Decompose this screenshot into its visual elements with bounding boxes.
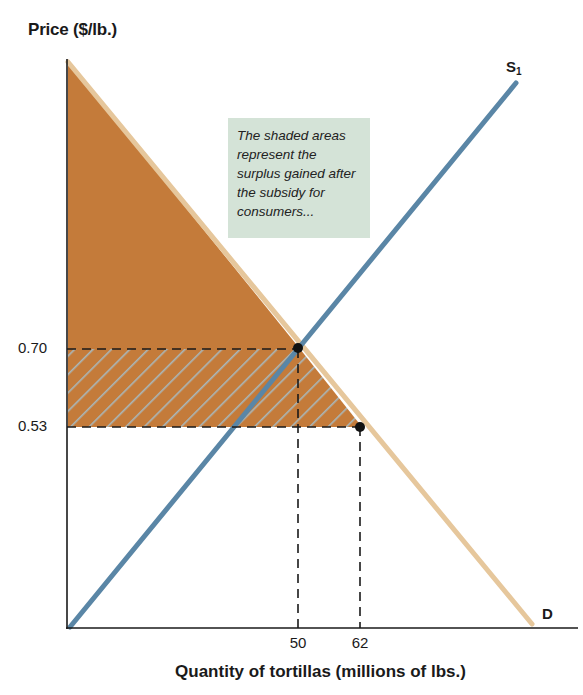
annotation-box: The shaded areas represent the surplus g… bbox=[228, 118, 370, 238]
y-tick-053: 0.53 bbox=[18, 417, 58, 434]
supply-label: S1 bbox=[506, 58, 522, 77]
x-axis-title: Quantity of tortillas (millions of lbs.) bbox=[0, 662, 583, 682]
y-axis-title: Price ($/lb.) bbox=[28, 20, 117, 40]
x-tick-62: 62 bbox=[345, 634, 375, 651]
demand-label: D bbox=[542, 605, 553, 622]
y-tick-070: 0.70 bbox=[18, 339, 58, 356]
subsidy-point bbox=[355, 422, 365, 432]
x-tick-50: 50 bbox=[283, 634, 313, 651]
surplus-gain-area bbox=[68, 349, 362, 427]
equilibrium-point bbox=[293, 343, 303, 353]
chart-canvas bbox=[0, 0, 583, 695]
